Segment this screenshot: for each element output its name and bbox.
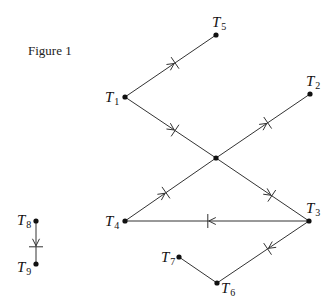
edge-t1-t5	[125, 35, 216, 97]
node-t1	[122, 94, 127, 99]
node-label-t2: T2	[306, 73, 320, 91]
node-label-t6: T6	[221, 280, 235, 298]
arrow-cross-icon	[263, 188, 276, 201]
node-t8	[33, 218, 38, 223]
node-label-t8: T8	[17, 212, 31, 230]
precedence-diagram: T1T2T3T4T5T6T7T8T9	[0, 0, 336, 304]
node-t3	[306, 218, 311, 223]
edge-t3-t6	[217, 221, 309, 283]
arrow-cross-icon	[166, 57, 179, 70]
node-label-t7: T7	[161, 249, 175, 267]
node-t7	[176, 254, 181, 259]
arrow-cross-icon	[264, 242, 277, 255]
arrow-cross-icon	[157, 187, 170, 200]
edge-c-t2	[216, 94, 310, 158]
labels-layer: T1T2T3T4T5T6T7T8T9	[17, 14, 320, 298]
node-c	[213, 155, 218, 160]
node-t6	[214, 280, 219, 285]
edges-layer	[36, 35, 310, 283]
node-label-t1: T1	[105, 89, 119, 107]
node-t9	[33, 261, 38, 266]
edge-c-t3	[216, 158, 309, 221]
node-t4	[122, 218, 127, 223]
node-t5	[213, 32, 218, 37]
edge-t7-t6	[179, 257, 217, 283]
node-label-t3: T3	[306, 200, 320, 218]
markers-layer	[29, 57, 276, 255]
arrow-cross-icon	[166, 123, 178, 136]
edge-t4-c	[125, 158, 216, 221]
node-label-t5: T5	[212, 14, 226, 32]
node-label-t4: T4	[105, 213, 119, 231]
node-t2	[307, 91, 312, 96]
node-label-t9: T9	[17, 259, 31, 277]
arrow-cross-icon	[259, 117, 272, 130]
edge-t1-c	[125, 97, 216, 158]
